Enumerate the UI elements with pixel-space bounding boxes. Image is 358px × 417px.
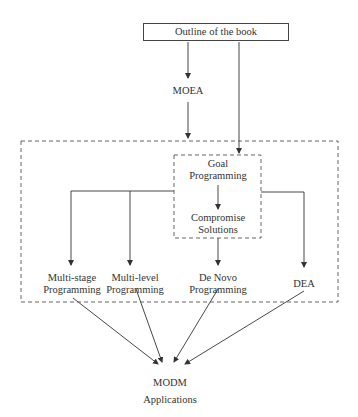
arrow-goal-to-dea [261, 192, 304, 267]
arrow-dea-to-modm [185, 291, 304, 364]
moea-node: MOEA [173, 85, 204, 97]
arrow-multilevel-to-modm [136, 289, 162, 362]
diagram-connectors [0, 0, 358, 417]
outline-box: Outline of the book [143, 23, 289, 41]
arrow-multistage-to-modm [73, 298, 158, 364]
arrow-goal-to-multistage [71, 191, 174, 265]
outline-label: Outline of the book [175, 26, 257, 37]
arrow-denovo-to-modm [174, 289, 218, 362]
goal-programming-node: Goal Programming [189, 158, 247, 182]
de-novo-node: De Novo Programming [189, 272, 247, 296]
multi-stage-node: Multi-stage Programming [43, 272, 101, 296]
compromise-solutions-node: Compromise Solutions [191, 212, 245, 236]
modm-applications-node: MODM Applications [143, 374, 197, 408]
multi-level-node: Multi-level Programming [106, 272, 164, 296]
dea-node: DEA [293, 278, 315, 290]
